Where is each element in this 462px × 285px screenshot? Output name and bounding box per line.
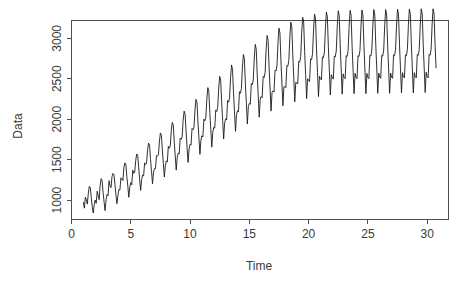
chart-container: 10001500200025003000 051015202530 Data T… — [0, 0, 462, 285]
y-tick-label: 1500 — [50, 146, 64, 173]
x-tick-label: 10 — [183, 227, 197, 241]
y-tick-label: 1000 — [50, 186, 64, 213]
x-tick-label: 25 — [361, 227, 375, 241]
x-tick-label: 0 — [68, 227, 75, 241]
y-tick-label: 3000 — [50, 25, 64, 52]
x-tick-label: 20 — [302, 227, 316, 241]
x-tick-label: 15 — [243, 227, 257, 241]
y-tick-label: 2500 — [50, 65, 64, 92]
y-tick-label: 2000 — [50, 106, 64, 133]
x-axis-title: Time — [246, 259, 273, 273]
plot-background — [0, 0, 462, 285]
y-axis-title: Data — [11, 113, 25, 139]
time-series-plot: 10001500200025003000 051015202530 Data T… — [0, 0, 462, 285]
x-tick-label: 30 — [420, 227, 434, 241]
x-tick-label: 5 — [127, 227, 134, 241]
